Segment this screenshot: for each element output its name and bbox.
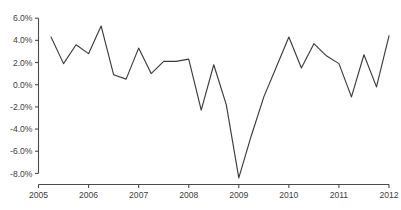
y-axis: 6.0%4.0%2.0%0.0%-2.0%-4.0%-6.0%-8.0% [10,13,38,178]
y-tick-label: 0.0% [13,80,33,90]
y-tick-label: -2.0% [10,102,33,112]
x-tick-label: 2007 [129,190,148,200]
x-tick-label: 2008 [179,190,198,200]
y-tick-label: 6.0% [13,13,33,23]
y-tick-label: 2.0% [13,58,33,68]
y-tick-label: -6.0% [10,146,33,156]
chart-canvas: 6.0%4.0%2.0%0.0%-2.0%-4.0%-6.0%-8.0% 200… [0,0,401,210]
x-axis: 20052006200720082009201020112012 [29,185,399,201]
series-line [51,26,389,178]
y-tick-label: -8.0% [10,169,33,179]
x-tick-label: 2005 [29,190,48,200]
x-tick-label: 2012 [379,190,398,200]
line-chart: 6.0%4.0%2.0%0.0%-2.0%-4.0%-6.0%-8.0% 200… [0,0,401,210]
x-tick-label: 2011 [330,190,349,200]
data-series [51,26,389,178]
x-tick-label: 2009 [229,190,248,200]
y-tick-label: -4.0% [10,124,33,134]
y-tick-label: 4.0% [13,35,33,45]
x-tick-label: 2006 [79,190,98,200]
x-tick-label: 2010 [279,190,298,200]
